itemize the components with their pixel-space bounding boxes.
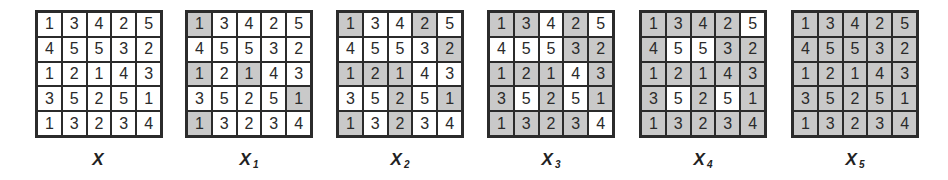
matrix-cell: 1	[794, 63, 817, 86]
matrix-cell: 5	[112, 87, 135, 110]
matrix-cell: 3	[262, 112, 285, 135]
matrix-cell: 4	[137, 112, 160, 135]
matrix-cell: 5	[741, 13, 764, 36]
matrix-cell: 4	[540, 13, 563, 36]
matrix-cell: 1	[741, 87, 764, 110]
matrix-cell: 3	[515, 112, 538, 135]
matrix-cell: 1	[238, 63, 261, 86]
matrix-cell: 3	[364, 13, 387, 36]
matrix-cell: 2	[819, 63, 842, 86]
matrix-grid: 1342545532121433525113234	[185, 10, 313, 138]
matrix-cell: 5	[213, 38, 236, 61]
matrix-grid: 1342545532121433525113234	[336, 10, 464, 138]
panel-label: X5	[791, 150, 919, 170]
matrix-cell: 2	[63, 63, 86, 86]
matrix-cell: 5	[515, 38, 538, 61]
matrix-cell: 5	[692, 38, 715, 61]
matrix-cell: 3	[794, 87, 817, 110]
matrix-cell: 1	[188, 13, 211, 36]
matrix-cell: 1	[339, 13, 362, 36]
matrix-cell: 3	[413, 38, 436, 61]
matrix-cell: 3	[112, 112, 135, 135]
matrix-cell: 3	[213, 112, 236, 135]
matrix-cell: 2	[868, 13, 891, 36]
matrix-grid: 1342545532121433525113234	[35, 10, 163, 138]
panel-label: X2	[336, 150, 464, 170]
label-main: X	[694, 150, 705, 169]
label-subscript: 3	[555, 159, 561, 170]
matrix-cell: 5	[262, 87, 285, 110]
matrix-cell: 3	[287, 63, 310, 86]
matrix-cell: 3	[564, 38, 587, 61]
panel-x1: 1342545532121433525113234 X1	[185, 10, 313, 138]
matrix-cell: 4	[741, 112, 764, 135]
matrix-cell: 1	[389, 63, 412, 86]
matrix-cell: 5	[868, 87, 891, 110]
label-subscript: 2	[404, 159, 410, 170]
matrix-cell: 4	[188, 38, 211, 61]
matrix-cell: 3	[339, 87, 362, 110]
matrix-cell: 1	[794, 13, 817, 36]
matrix-cell: 3	[868, 112, 891, 135]
label-main: X	[542, 150, 553, 169]
matrix-cell: 5	[88, 38, 111, 61]
matrix-cell: 4	[844, 13, 867, 36]
matrix-cell: 4	[438, 112, 461, 135]
matrix-cell: 3	[262, 38, 285, 61]
matrix-cell: 1	[692, 63, 715, 86]
matrix-cell: 4	[238, 13, 261, 36]
matrix-cell: 5	[589, 13, 612, 36]
matrix-cell: 5	[63, 38, 86, 61]
matrix-cell: 2	[238, 112, 261, 135]
matrix-cell: 1	[589, 87, 612, 110]
matrix-cell: 1	[137, 87, 160, 110]
matrix-cell: 1	[188, 112, 211, 135]
matrix-cell: 3	[642, 87, 665, 110]
matrix-cell: 3	[490, 87, 513, 110]
matrix-cell: 2	[844, 112, 867, 135]
matrix-cell: 2	[716, 13, 739, 36]
matrix-cell: 3	[741, 63, 764, 86]
matrix-grid: 1342545532121433525113234	[791, 10, 919, 138]
matrix-cell: 3	[38, 87, 61, 110]
panel-x2: 1342545532121433525113234 X2	[336, 10, 464, 138]
matrix-cell: 1	[844, 63, 867, 86]
matrix-cell: 5	[540, 38, 563, 61]
matrix-cell: 3	[364, 112, 387, 135]
matrix-cell: 2	[137, 38, 160, 61]
matrix-cell: 4	[339, 38, 362, 61]
label-main: X	[846, 150, 857, 169]
matrix-cell: 4	[716, 63, 739, 86]
matrix-cell: 1	[339, 112, 362, 135]
matrix-cell: 1	[287, 87, 310, 110]
matrix-cell: 1	[540, 63, 563, 86]
label-subscript: 4	[707, 159, 713, 170]
matrix-cell: 3	[564, 112, 587, 135]
matrix-cell: 5	[819, 87, 842, 110]
matrix-cell: 1	[642, 63, 665, 86]
matrix-cell: 2	[262, 13, 285, 36]
matrix-cell: 3	[893, 63, 916, 86]
panel-x4: 1342545532121433525113234 X4	[639, 10, 767, 138]
matrix-cell: 3	[63, 13, 86, 36]
label-main: X	[240, 150, 251, 169]
matrix-cell: 4	[112, 63, 135, 86]
matrix-cell: 2	[692, 112, 715, 135]
matrix-cell: 3	[413, 112, 436, 135]
matrix-cell: 4	[88, 13, 111, 36]
matrix-cell: 5	[667, 38, 690, 61]
matrix-cell: 3	[63, 112, 86, 135]
matrix-cell: 1	[642, 112, 665, 135]
matrix-cell: 3	[112, 38, 135, 61]
matrix-cell: 5	[667, 87, 690, 110]
matrix-cell: 4	[794, 38, 817, 61]
matrix-cell: 2	[88, 87, 111, 110]
matrix-cell: 3	[589, 63, 612, 86]
matrix-cell: 2	[389, 112, 412, 135]
matrix-cell: 5	[238, 38, 261, 61]
matrix-cell: 4	[893, 112, 916, 135]
label-main: X	[391, 150, 402, 169]
matrix-cell: 5	[844, 38, 867, 61]
matrix-cell: 4	[564, 63, 587, 86]
matrix-cell: 5	[213, 87, 236, 110]
